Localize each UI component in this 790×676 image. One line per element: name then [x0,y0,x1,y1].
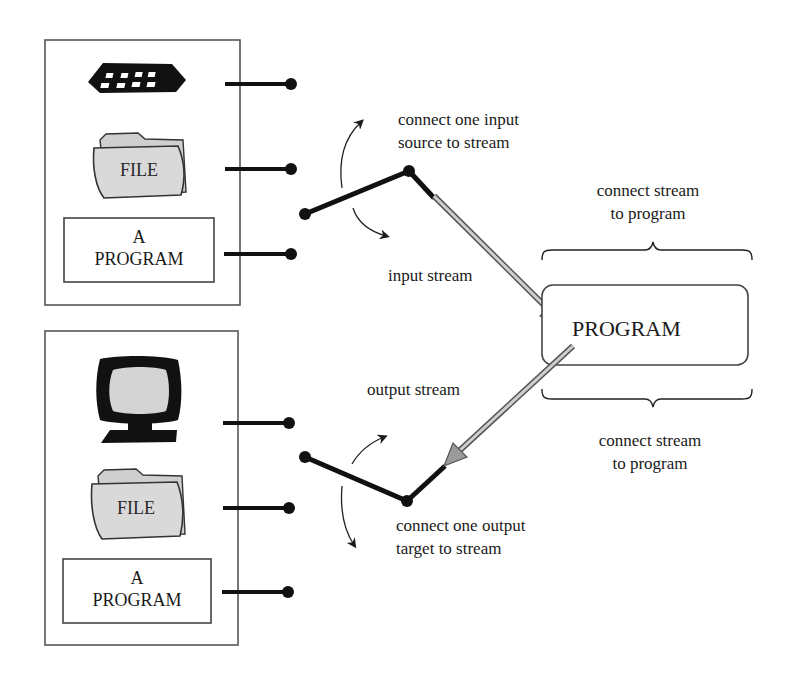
top-brace-label-line2: to program [553,202,743,225]
input-program-label-line2: PROGRAM [64,248,214,270]
bottom-brace-label-line2: to program [555,452,745,475]
top-brace-label: connect stream to program [553,179,743,225]
input-switch-label: connect one input source to stream [398,108,519,154]
input-stream-label: input stream [388,264,473,287]
output-program-terminal[interactable] [282,586,294,598]
switch-down-arrow-icon [353,208,386,236]
input-program-label: A PROGRAM [64,226,214,270]
output-stream-arrow [444,346,573,466]
top-brace [542,242,752,260]
bottom-brace [542,389,752,407]
output-stream-label: output stream [367,378,460,401]
switch-up-arrow-icon [352,437,384,464]
input-switch-label-line1: connect one input [398,108,519,131]
input-file-label: FILE [120,160,158,180]
input-switch-label-line2: source to stream [398,131,519,154]
input-program-label-line1: A [64,226,214,248]
input-program-terminal[interactable] [285,248,297,260]
output-file-label: FILE [117,498,155,518]
bottom-brace-label-line1: connect stream [555,429,745,452]
bottom-brace-label: connect stream to program [555,429,745,475]
input-file-terminal[interactable] [285,163,297,175]
output-program-label-line2: PROGRAM [63,589,211,611]
switch-up-arrow-icon [341,122,361,188]
output-switch-label-line2: target to stream [396,537,525,560]
keyboard-terminal[interactable] [285,78,297,90]
output-file-terminal[interactable] [283,502,295,514]
output-switch-label-line1: connect one output [396,514,525,537]
output-switch-label: connect one output target to stream [396,514,525,560]
output-program-label-line1: A [63,567,211,589]
monitor-terminal[interactable] [283,417,295,429]
input-device-group [45,40,566,326]
top-brace-label-line1: connect stream [553,179,743,202]
switch-down-arrow-icon [342,486,355,545]
input-switch[interactable] [299,165,434,220]
monitor-icon [96,356,181,443]
program-label: PROGRAM [572,316,681,342]
output-switch[interactable] [299,451,445,507]
output-program-label: A PROGRAM [63,567,211,611]
keyboard-icon [88,63,186,93]
